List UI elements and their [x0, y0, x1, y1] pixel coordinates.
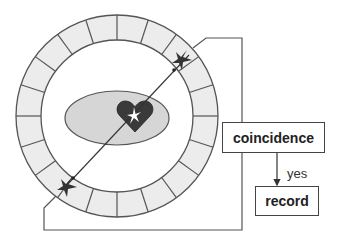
coincidence-box: coincidence — [222, 122, 325, 153]
coincidence-label: coincidence — [233, 130, 314, 146]
record-box: record — [255, 186, 319, 216]
patient-body-ellipse — [65, 91, 169, 145]
record-label: record — [265, 193, 309, 209]
photon-dot-bottom — [71, 176, 75, 180]
yes-label: yes — [287, 166, 307, 181]
photon-dot-top — [172, 68, 176, 72]
